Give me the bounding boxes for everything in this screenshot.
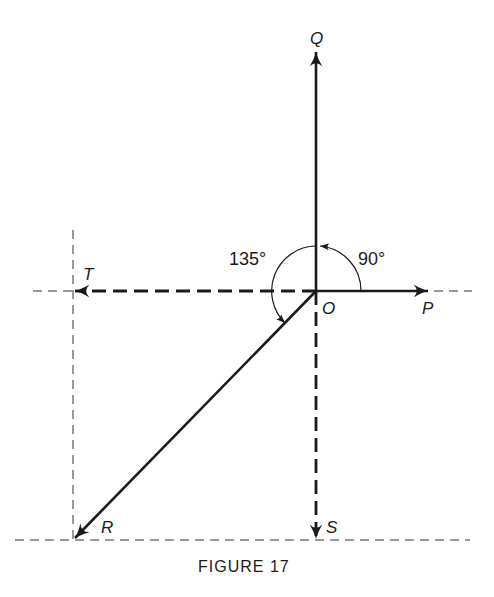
- label-t: T: [83, 265, 95, 284]
- angle-label-90: 90°: [358, 249, 385, 269]
- vector-diagram: Q P T S R O 90° 135° FIGURE 17: [0, 0, 494, 597]
- label-r: R: [101, 518, 113, 537]
- figure-caption: FIGURE 17: [198, 558, 290, 575]
- label-q: Q: [310, 29, 323, 48]
- vector-r: [75, 291, 316, 538]
- angle-label-135: 135°: [229, 249, 266, 269]
- angle-arc-135: [272, 246, 316, 323]
- label-p: P: [422, 299, 434, 318]
- label-s: S: [326, 518, 338, 537]
- angle-arc-90: [320, 246, 361, 291]
- label-origin: O: [322, 299, 335, 318]
